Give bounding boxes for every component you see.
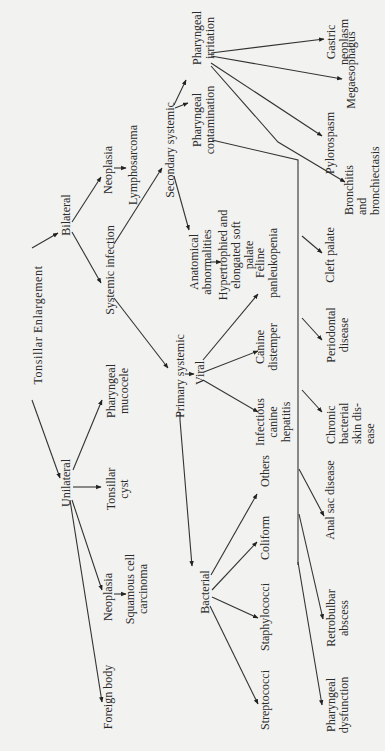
- node-label-line-2: abnormalities: [200, 229, 214, 295]
- node-chronic-bacterial-skin-disease: Chronic bacterial skin dis- ease: [324, 402, 377, 444]
- node-bacterial: Bacterial: [198, 570, 212, 614]
- edge-irritation-pylorospasm: [211, 63, 322, 136]
- edge-root-bilateral: [32, 233, 58, 248]
- nodes: Tonsillar Enlargement Bilateral Unilater…: [31, 10, 382, 733]
- node-anatomical-abnormalities: Anatomical abnormalities: [187, 229, 214, 295]
- node-periodontal-disease: Periodontal disease: [324, 307, 351, 363]
- node-label: Staphylococci: [258, 582, 272, 651]
- node-squamous-cell-carcinoma: Squamous cell carcinoma: [123, 553, 150, 624]
- node-foreign-body: Foreign body: [101, 665, 115, 729]
- node-label-line-1: Retrobulbar: [324, 589, 338, 646]
- node-label-line-2: distemper: [266, 323, 280, 370]
- node-label-line-2: and: [355, 198, 369, 215]
- node-pharyngeal-contamination: Pharyngeal contamination: [190, 86, 217, 155]
- node-megaesophagus: Megaesophagus: [344, 31, 358, 109]
- node-lymphosarcoma: Lymphosarcoma: [126, 124, 140, 205]
- node-label-line-2: panleukopenia: [266, 227, 280, 298]
- edge-secondary-irritation: [174, 80, 186, 105]
- node-staphylococci: Staphylococci: [258, 582, 272, 651]
- node-label-line-1: Chronic: [324, 405, 338, 444]
- node-label-line-1: Anatomical: [187, 233, 201, 290]
- node-label: Primary systemic: [173, 334, 187, 418]
- node-label: Pylorospasm: [323, 111, 337, 174]
- edge-contamination-cleft-palate: [302, 236, 322, 253]
- node-label-line-3: skin dis-: [350, 403, 364, 444]
- edge-contamination-dysfunction: [298, 562, 322, 705]
- node-label: Neoplasia: [101, 572, 115, 621]
- edge-systemic-primary: [114, 298, 168, 368]
- node-label-line-1: Canine: [253, 330, 267, 364]
- node-label-line-1: Gastric: [324, 25, 338, 60]
- node-label-line-1: Pharyngeal: [324, 677, 338, 732]
- node-label: Streptococci: [258, 669, 272, 730]
- node-label-line-1: Bronchitis: [342, 165, 356, 215]
- node-label-line-2: abscess: [337, 600, 351, 636]
- node-neoplasia-bilateral: Neoplasia: [101, 145, 115, 194]
- node-label-line-3: bronchiectasis: [368, 146, 382, 215]
- node-label: Systemic infection: [103, 225, 117, 315]
- node-tonsillar-enlargement: Tonsillar Enlargement: [31, 265, 45, 384]
- flowchart-diagram: Tonsillar Enlargement Bilateral Unilater…: [0, 0, 385, 751]
- node-bronchitis-bronchiectasis: Bronchitis and bronchiectasis: [342, 146, 382, 215]
- node-label-line-2: bacterial: [337, 402, 351, 444]
- edge-primary-bacterial: [180, 412, 192, 566]
- node-unilateral: Unilateral: [59, 458, 73, 507]
- node-label-line-1: Pharyngeal: [190, 10, 204, 65]
- node-others: Others: [258, 455, 272, 487]
- node-label: Anal sac disease: [323, 460, 337, 539]
- edge-viral-canine-distemper: [204, 351, 258, 372]
- node-primary-systemic: Primary systemic: [173, 334, 187, 418]
- node-label-line-2: cyst: [117, 479, 131, 499]
- node-label-line-1: Periodontal: [324, 307, 338, 363]
- node-label-line-2: dysfunction: [337, 677, 351, 734]
- node-viral: Viral: [193, 360, 207, 385]
- node-label-line-1: Infectious: [253, 398, 267, 446]
- node-label-line-1: Pharyngeal: [190, 92, 204, 147]
- node-coliform: Coliform: [258, 515, 272, 560]
- node-label: Bacterial: [198, 570, 212, 614]
- node-label-line-1: Tonsillar: [104, 468, 118, 511]
- node-label: Tonsillar Enlargement: [31, 265, 45, 384]
- node-label: Coliform: [258, 515, 272, 560]
- node-label: Viral: [193, 360, 207, 385]
- node-label: Secondary systemic: [163, 102, 177, 198]
- edge-contamination-anal-sac: [299, 469, 324, 516]
- node-streptococci: Streptococci: [258, 669, 272, 730]
- node-label: Unilateral: [59, 458, 73, 507]
- node-label-line-1: Squamous cell: [123, 553, 137, 624]
- edge-viral-feline: [203, 294, 258, 360]
- node-pharyngeal-dysfunction: Pharyngeal dysfunction: [324, 677, 351, 734]
- node-bilateral: Bilateral: [59, 194, 73, 236]
- node-label: Lymphosarcoma: [126, 124, 140, 205]
- edge-viral-hepatitis: [203, 380, 258, 412]
- edge-contamination-periodontal: [302, 318, 322, 340]
- node-retrobulbar-abscess: Retrobulbar abscess: [324, 589, 351, 646]
- node-label: Bilateral: [59, 194, 73, 236]
- node-label-line-4: ease: [363, 423, 377, 444]
- edge-root-unilateral: [32, 400, 60, 478]
- node-label: Cleft palate: [323, 227, 337, 283]
- edge-bacterial-staphylococci: [212, 597, 258, 618]
- edge-bilateral-systemic-infection: [72, 232, 101, 283]
- node-label-line-2: elongated soft: [229, 221, 243, 289]
- node-label-line-2: canine: [266, 406, 280, 437]
- node-label-line-2: mucocele: [117, 368, 131, 414]
- edge-contamination-retrobulbar: [299, 514, 323, 619]
- node-hypertrophied-soft-palate: Hypertrophied and elongated soft palate: [216, 210, 256, 300]
- node-canine-distemper: Canine distemper: [253, 323, 280, 370]
- edge-bacterial-coliform: [212, 542, 257, 590]
- node-secondary-systemic: Secondary systemic: [163, 102, 177, 198]
- node-label-line-2: carcinoma: [136, 563, 150, 614]
- edge-bacterial-streptococci: [210, 606, 258, 704]
- node-pharyngeal-mucocele: Pharyngeal mucocele: [104, 363, 131, 418]
- node-tonsillar-cyst: Tonsillar cyst: [104, 468, 131, 511]
- edges: [32, 39, 345, 705]
- node-systemic-infection: Systemic infection: [103, 225, 117, 315]
- node-label: Neoplasia: [101, 145, 115, 194]
- node-label-line-2: irritation: [203, 17, 217, 59]
- edge-irritation-gastric: [211, 39, 324, 53]
- edge-unilateral-neoplasia: [72, 500, 102, 590]
- node-cleft-palate: Cleft palate: [323, 227, 337, 283]
- node-label: Megaesophagus: [344, 31, 358, 109]
- node-label-line-3: hepatitis: [279, 401, 293, 442]
